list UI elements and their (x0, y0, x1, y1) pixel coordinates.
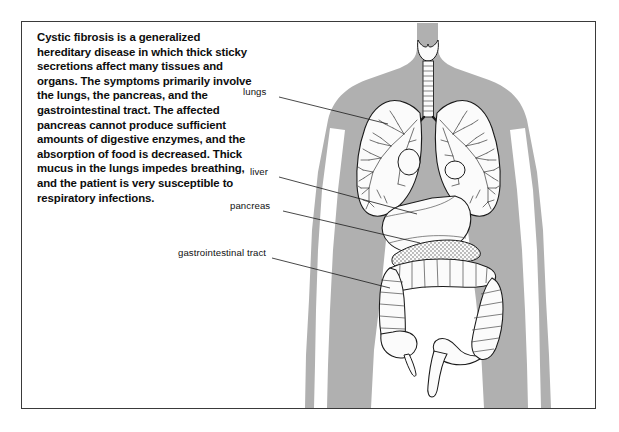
figure-page: Cystic fibrosis is a generalized heredit… (0, 0, 619, 432)
callout-label-lungs: lungs (243, 86, 266, 97)
callout-label-liver: liver (250, 166, 268, 177)
description-text: Cystic fibrosis is a generalized heredit… (37, 30, 252, 205)
callout-label-gastrointestinal-tract: gastrointestinal tract (178, 247, 266, 258)
callout-label-pancreas: pancreas (230, 200, 270, 211)
